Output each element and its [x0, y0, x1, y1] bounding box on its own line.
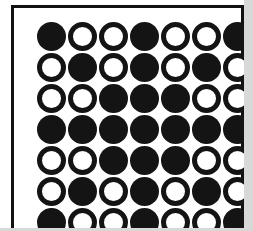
- open-circle-icon: [68, 22, 97, 51]
- dot-cell: [37, 177, 68, 208]
- dot-cell: [68, 115, 99, 146]
- filled-circle-icon: [130, 115, 159, 144]
- open-circle-icon: [37, 84, 66, 113]
- filled-circle-icon: [192, 53, 221, 82]
- filled-circle-icon: [37, 22, 66, 51]
- dot-cell: [68, 146, 99, 177]
- dot-cell: [161, 53, 192, 84]
- filled-circle-icon: [68, 177, 97, 206]
- dot-cell: [37, 53, 68, 84]
- dot-cell: [130, 115, 161, 146]
- dot-cell: [68, 53, 99, 84]
- dot-cell: [192, 146, 223, 177]
- filled-circle-icon: [130, 177, 159, 206]
- dot-cell: [99, 53, 130, 84]
- dot-cell: [130, 177, 161, 208]
- dot-cell: [192, 84, 223, 115]
- open-circle-icon: [192, 84, 221, 113]
- open-circle-icon: [161, 53, 190, 82]
- open-circle-icon: [99, 177, 128, 206]
- dot-cell: [37, 146, 68, 177]
- filled-circle-icon: [161, 84, 190, 113]
- filled-circle-icon: [37, 115, 66, 144]
- open-circle-icon: [68, 146, 97, 175]
- filled-circle-icon: [161, 146, 190, 175]
- filled-circle-icon: [130, 146, 159, 175]
- figure-canvas: [0, 0, 253, 231]
- dot-cell: [37, 84, 68, 115]
- filled-circle-icon: [99, 146, 128, 175]
- dot-cell: [192, 22, 223, 53]
- pattern-frame: [11, 5, 244, 231]
- dot-cell: [37, 22, 68, 53]
- dot-cell: [99, 84, 130, 115]
- dot-cell: [192, 53, 223, 84]
- filled-circle-icon: [130, 53, 159, 82]
- page-edge-right: [244, 0, 253, 231]
- filled-circle-icon: [161, 115, 190, 144]
- dot-cell: [68, 22, 99, 53]
- filled-circle-icon: [99, 115, 128, 144]
- dot-cell: [130, 84, 161, 115]
- dot-cell: [130, 146, 161, 177]
- filled-circle-icon: [130, 84, 159, 113]
- dot-cell: [68, 177, 99, 208]
- dot-cell: [99, 115, 130, 146]
- open-circle-icon: [99, 53, 128, 82]
- open-circle-icon: [99, 22, 128, 51]
- dot-cell: [99, 177, 130, 208]
- filled-circle-icon: [68, 53, 97, 82]
- filled-circle-icon: [192, 177, 221, 206]
- open-circle-icon: [161, 22, 190, 51]
- dot-cell: [99, 22, 130, 53]
- filled-circle-icon: [130, 22, 159, 51]
- dot-cell: [37, 115, 68, 146]
- dot-cell: [161, 146, 192, 177]
- filled-circle-icon: [99, 84, 128, 113]
- dot-cell: [130, 53, 161, 84]
- dot-cell: [192, 115, 223, 146]
- open-circle-icon: [37, 146, 66, 175]
- filled-circle-icon: [68, 115, 97, 144]
- dot-cell: [161, 84, 192, 115]
- open-circle-icon: [192, 146, 221, 175]
- dot-cell: [130, 22, 161, 53]
- dot-cell: [161, 177, 192, 208]
- open-circle-icon: [68, 84, 97, 113]
- filled-circle-icon: [192, 115, 221, 144]
- dot-cell: [99, 146, 130, 177]
- dot-grid: [37, 22, 253, 231]
- dot-cell: [161, 115, 192, 146]
- dot-cell: [68, 84, 99, 115]
- open-circle-icon: [37, 177, 66, 206]
- dot-cell: [192, 177, 223, 208]
- dot-cell: [161, 22, 192, 53]
- open-circle-icon: [161, 177, 190, 206]
- page-edge-bottom: [0, 228, 253, 231]
- open-circle-icon: [37, 53, 66, 82]
- open-circle-icon: [192, 22, 221, 51]
